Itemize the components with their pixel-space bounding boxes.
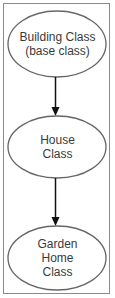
node-building-label: Building Class (base class)	[0, 30, 115, 58]
node-house-line2: Class	[0, 147, 115, 161]
node-garden-label: Garden Home Class	[0, 237, 115, 279]
node-house-line1: House	[0, 133, 115, 147]
node-garden-line1: Garden	[0, 237, 115, 251]
node-building-line1: Building Class	[0, 30, 115, 44]
node-house-label: House Class	[0, 133, 115, 161]
arrowhead-icon	[52, 217, 60, 226]
node-garden-line2: Home	[0, 251, 115, 265]
arrowhead-icon	[52, 107, 60, 116]
node-building-line2: (base class)	[0, 44, 115, 58]
node-garden-line3: Class	[0, 265, 115, 279]
